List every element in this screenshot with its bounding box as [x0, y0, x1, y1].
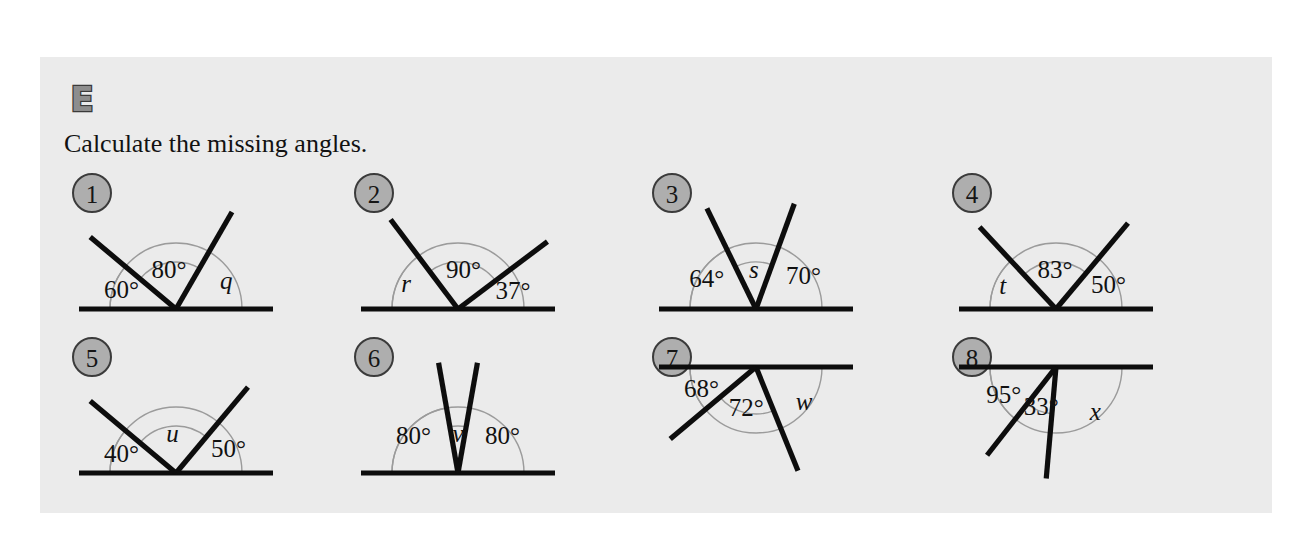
diagram-5: 540°u50°: [68, 333, 368, 503]
angle-label-unknown: u: [166, 420, 179, 447]
angle-label-known: 50°: [1091, 271, 1126, 298]
angle-label-unknown: s: [749, 256, 759, 283]
angle-label-known: 68°: [684, 375, 719, 402]
diagram-1: 160°80°q: [68, 169, 368, 339]
problem-8: 895°33°x: [948, 333, 1248, 503]
problem-7: 768°72°w: [648, 333, 948, 503]
diagram-3: 364°s70°: [648, 169, 948, 339]
problem-number: 4: [966, 181, 979, 208]
ray-1: [756, 204, 794, 309]
angle-label-unknown: t: [999, 272, 1007, 299]
problem-number: 2: [368, 181, 381, 208]
exercise-letter-badge: E: [65, 80, 99, 118]
angle-label-known: 83°: [1037, 256, 1072, 283]
angle-label-known: 80°: [152, 256, 187, 283]
angle-label-known: 64°: [689, 265, 724, 292]
problem-5: 540°u50°: [68, 333, 368, 503]
angle-label-known: 37°: [496, 277, 531, 304]
angle-label-unknown: x: [1089, 398, 1101, 425]
problem-2: 2r90°37°: [350, 169, 650, 339]
angle-label-known: 40°: [104, 440, 139, 467]
problem-3: 364°s70°: [648, 169, 948, 339]
ray-1: [458, 363, 477, 473]
problem-number: 5: [86, 345, 99, 372]
problem-number: 6: [368, 345, 381, 372]
diagram-2: 2r90°37°: [350, 169, 650, 339]
angle-label-known: 80°: [396, 422, 431, 449]
instruction-text: Calculate the missing angles.: [64, 129, 367, 159]
problem-1: 160°80°q: [68, 169, 368, 339]
angle-label-unknown: w: [796, 388, 813, 415]
diagram-7: 768°72°w: [648, 333, 948, 503]
angle-label-unknown: r: [401, 270, 411, 297]
angle-label-known: 95°: [986, 381, 1021, 408]
problem-number-badge: 3: [653, 174, 691, 212]
angle-label-known: 70°: [786, 262, 821, 289]
angle-label-known: 90°: [446, 256, 481, 283]
problem-number-badge: 5: [73, 338, 111, 376]
problem-number: 1: [86, 181, 99, 208]
ray-2: [439, 363, 458, 473]
diagram-4: 4t83°50°: [948, 169, 1248, 339]
problem-number: 3: [666, 181, 679, 208]
angle-label-unknown: q: [220, 267, 233, 294]
diagram-6: 680°v80°: [350, 333, 650, 503]
problem-number-badge: 7: [653, 338, 691, 376]
angle-label-known: 60°: [104, 276, 139, 303]
angle-label-known: 80°: [485, 422, 520, 449]
ray-1: [1046, 367, 1056, 479]
problem-number-badge: 1: [73, 174, 111, 212]
problem-number-badge: 6: [355, 338, 393, 376]
angle-label-known: 50°: [211, 435, 246, 462]
angle-label-known: 33°: [1024, 393, 1059, 420]
angle-label-known: 72°: [729, 394, 764, 421]
worksheet-panel: E Calculate the missing angles. 160°80°q…: [40, 57, 1272, 513]
problem-number-badge: 8: [953, 338, 991, 376]
diagram-8: 895°33°x: [948, 333, 1248, 503]
problem-number-badge: 2: [355, 174, 393, 212]
problem-4: 4t83°50°: [948, 169, 1248, 339]
problems-grid: 160°80°q2r90°37°364°s70°4t83°50°540°u50°…: [40, 169, 1272, 509]
angle-label-unknown: v: [452, 420, 464, 447]
problem-6: 680°v80°: [350, 333, 650, 503]
problem-number-badge: 4: [953, 174, 991, 212]
